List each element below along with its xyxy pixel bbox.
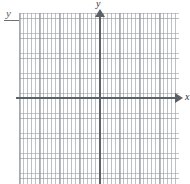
x-axis-line: [16, 97, 177, 99]
y-axis-line: [99, 16, 101, 184]
x-axis-label: x: [185, 91, 189, 102]
y-axis-label: y: [96, 0, 100, 9]
x-axis-arrowhead-icon: [175, 93, 183, 103]
header-label-text: y: [6, 7, 11, 19]
coordinate-plane-figure: y y x: [0, 0, 190, 184]
y-axis-arrowhead-icon: [95, 9, 105, 17]
